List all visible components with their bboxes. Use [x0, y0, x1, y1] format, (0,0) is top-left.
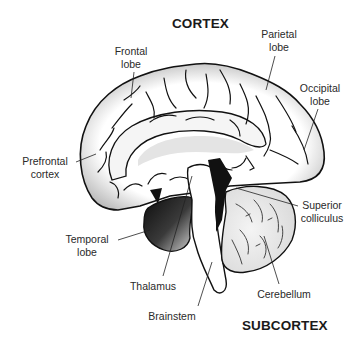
label-cerebellum-line1: Cerebellum — [257, 288, 311, 301]
label-occipital-lobe: Occipital lobe — [300, 82, 340, 108]
label-temporal-lobe-line2: lobe — [65, 246, 108, 259]
label-thalamus-line1: Thalamus — [130, 280, 176, 293]
label-prefrontal-cortex-line1: Prefrontal — [22, 155, 68, 168]
label-brainstem-line1: Brainstem — [148, 310, 195, 323]
label-superior-colliculus-line2: colliculus — [301, 212, 344, 225]
label-temporal-lobe-line1: Temporal — [65, 233, 108, 246]
label-brainstem: Brainstem — [148, 310, 195, 323]
label-occipital-lobe-line2: lobe — [300, 95, 340, 108]
label-prefrontal-cortex-line2: cortex — [22, 168, 68, 181]
label-cerebellum: Cerebellum — [257, 288, 311, 301]
temporal-lobe-region — [144, 197, 193, 252]
label-parietal-lobe-line1: Parietal — [261, 28, 297, 41]
subcortex-heading: SUBCORTEX — [242, 318, 328, 333]
cerebellum-region — [221, 186, 295, 272]
label-superior-colliculus: Superior colliculus — [301, 199, 344, 225]
label-occipital-lobe-line1: Occipital — [300, 82, 340, 95]
cortex-heading: CORTEX — [172, 16, 229, 31]
label-prefrontal-cortex: Prefrontal cortex — [22, 155, 68, 181]
label-frontal-lobe-line1: Frontal — [115, 45, 148, 58]
label-parietal-lobe: Parietal lobe — [261, 28, 297, 54]
label-frontal-lobe-line2: lobe — [115, 58, 148, 71]
label-thalamus: Thalamus — [130, 280, 176, 293]
label-temporal-lobe: Temporal lobe — [65, 233, 108, 259]
label-frontal-lobe: Frontal lobe — [115, 45, 148, 71]
brain-diagram: CORTEX SUBCORTEX Frontal lobe Parietal l… — [0, 0, 362, 346]
label-superior-colliculus-line1: Superior — [301, 199, 344, 212]
label-parietal-lobe-line2: lobe — [261, 41, 297, 54]
